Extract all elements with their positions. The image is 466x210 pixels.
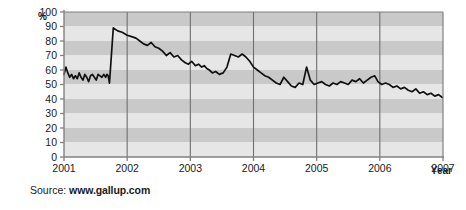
y-tick-label-0: 0 bbox=[51, 151, 57, 163]
source-url: www.gallup.com bbox=[69, 184, 150, 196]
y-tick-label-80: 80 bbox=[45, 35, 57, 47]
y-tick-label-90: 90 bbox=[45, 20, 57, 32]
x-tick-label-2002: 2002 bbox=[115, 162, 139, 174]
y-axis-title: % bbox=[38, 11, 47, 22]
chart-figure: 1009080706050403020100 20012002200320042… bbox=[0, 0, 466, 210]
source-label: Source: bbox=[30, 184, 66, 196]
y-tick-label-30: 30 bbox=[45, 107, 57, 119]
x-tick-label-2001: 2001 bbox=[52, 162, 76, 174]
y-tick-label-70: 70 bbox=[45, 49, 57, 61]
y-tick-label-40: 40 bbox=[45, 93, 57, 105]
y-tick-label-50: 50 bbox=[45, 78, 57, 90]
y-tick-label-60: 60 bbox=[45, 64, 57, 76]
y-tick-label-10: 10 bbox=[45, 136, 57, 148]
x-tick-label-2006: 2006 bbox=[368, 162, 392, 174]
y-axis-tick-labels: 1009080706050403020100 bbox=[39, 6, 57, 163]
approval-rating-line-chart: 1009080706050403020100 20012002200320042… bbox=[0, 0, 466, 210]
x-tick-label-2004: 2004 bbox=[242, 162, 266, 174]
y-tick-label-20: 20 bbox=[45, 122, 57, 134]
x-axis-title: Year bbox=[431, 165, 452, 176]
source-credit: Source: www.gallup.com bbox=[30, 184, 150, 196]
x-axis-tick-labels: 2001200220032004200520062007 bbox=[52, 162, 455, 174]
x-tick-label-2003: 2003 bbox=[179, 162, 203, 174]
x-tick-label-2005: 2005 bbox=[305, 162, 329, 174]
